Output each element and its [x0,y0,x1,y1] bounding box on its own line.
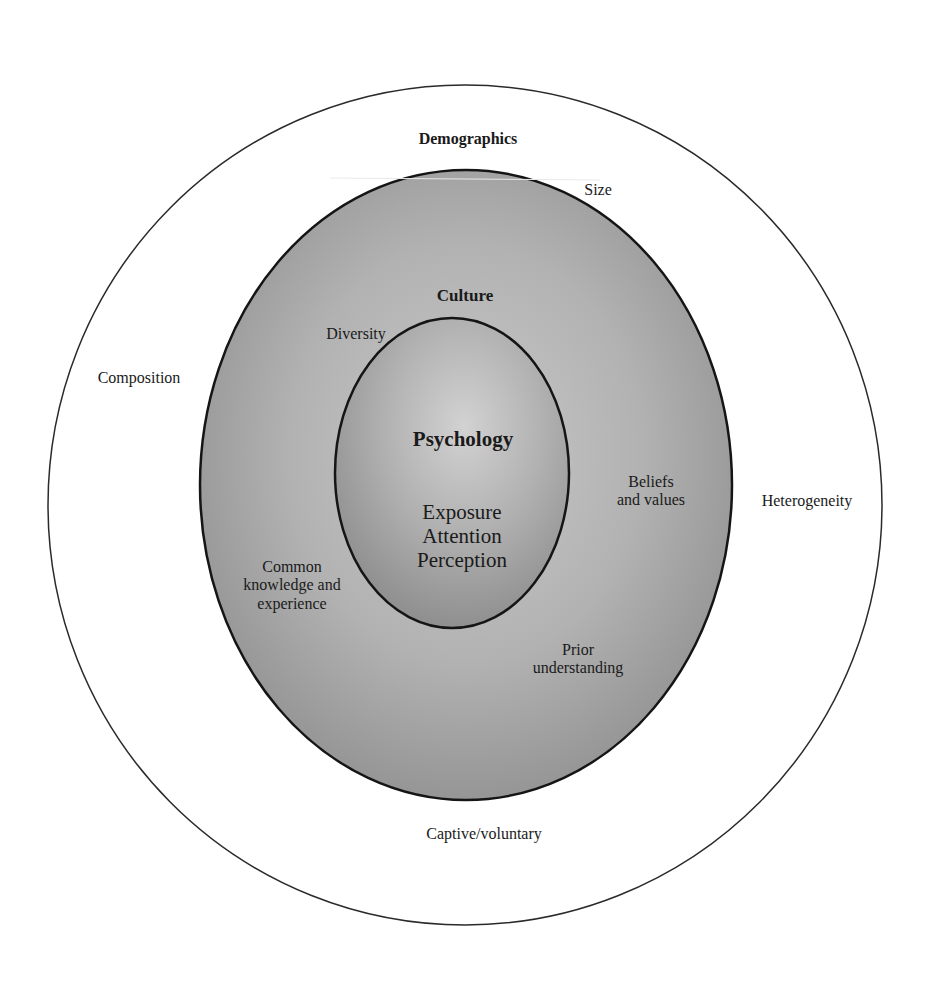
inner-items-list: Exposure Attention Perception [417,500,507,572]
outer-item-captive-voluntary: Captive/voluntary [426,825,542,843]
middle-item-diversity: Diversity [326,325,386,343]
middle-item-common-knowledge: Common knowledge and experience [243,558,340,613]
inner-item-perception: Perception [417,548,507,572]
common-line-1: Common [243,558,340,576]
inner-layer-title: Psychology [413,427,513,451]
beliefs-line-2: and values [617,491,685,509]
inner-item-attention: Attention [417,524,507,548]
beliefs-line-1: Beliefs [617,473,685,491]
middle-item-beliefs-values: Beliefs and values [617,473,685,510]
inner-circle-psychology [335,318,569,628]
middle-layer-title: Culture [437,286,493,306]
common-line-3: experience [243,595,340,613]
outer-item-composition: Composition [98,369,181,387]
outer-layer-title: Demographics [419,130,518,148]
common-line-2: knowledge and [243,577,340,595]
prior-line-2: understanding [533,659,624,677]
prior-line-1: Prior [533,641,624,659]
inner-item-exposure: Exposure [417,500,507,524]
middle-item-prior-understanding: Prior understanding [533,641,624,678]
outer-item-size: Size [584,181,612,199]
outer-item-heterogeneity: Heterogeneity [762,492,853,510]
